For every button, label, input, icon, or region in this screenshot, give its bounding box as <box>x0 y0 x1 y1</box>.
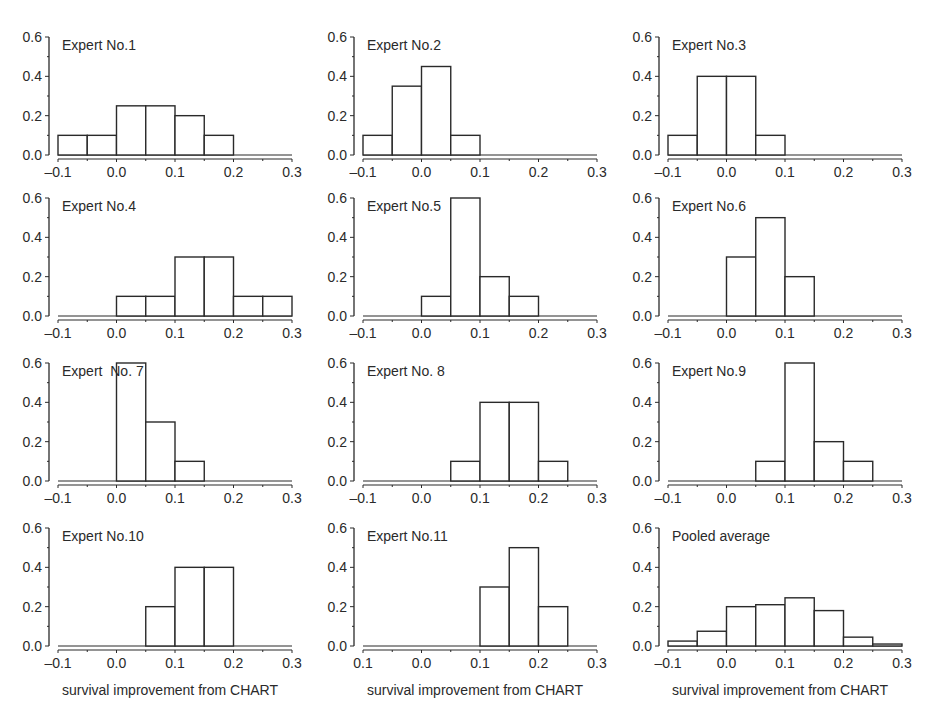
y-tick-label: 0.6 <box>328 29 348 45</box>
panel-title: Expert No. 7 <box>62 363 144 379</box>
x-tick-label: –0.1 <box>654 164 681 180</box>
x-tick-label: 0.3 <box>587 655 607 671</box>
histogram-bar <box>204 135 233 155</box>
histogram-panel-3: 0.00.20.40.6–0.10.00.10.20.3Expert No.3 <box>610 25 915 190</box>
x-tick-label: 0.3 <box>587 325 607 341</box>
histogram-bar <box>146 607 175 646</box>
x-tick-label: 0.2 <box>529 325 549 341</box>
y-tick-label: 0.0 <box>633 638 653 654</box>
y-tick-label: 0.4 <box>328 394 348 410</box>
histogram-bar <box>697 76 726 155</box>
histogram-svg: 0.00.20.40.6–0.10.00.10.20.3Expert No.5 <box>305 186 610 351</box>
x-tick-label: 0.1 <box>470 655 490 671</box>
x-tick-label: 0.2 <box>834 164 854 180</box>
x-tick-label: 0.3 <box>282 325 302 341</box>
x-tick-label: 0.1 <box>775 655 795 671</box>
histogram-panel-11: 0.00.20.40.60.10.00.10.20.3Expert No.11 <box>305 516 610 681</box>
x-tick-label: 0.3 <box>892 490 912 506</box>
histogram-bar <box>263 296 292 316</box>
histogram-bar <box>204 567 233 646</box>
y-tick-label: 0.4 <box>633 68 653 84</box>
y-tick-label: 0.2 <box>23 108 43 124</box>
x-tick-label: 0.2 <box>224 325 244 341</box>
x-tick-label: 0.0 <box>717 164 737 180</box>
histogram-bar <box>451 198 480 316</box>
x-tick-label: –0.1 <box>44 325 71 341</box>
histogram-bar <box>87 135 116 155</box>
y-tick-label: 0.2 <box>633 108 653 124</box>
histogram-bar <box>668 135 697 155</box>
histogram-svg: 0.00.20.40.6–0.10.00.10.20.3Expert No. 7 <box>0 351 305 516</box>
x-tick-label: 0.0 <box>107 164 127 180</box>
histogram-panel-7: 0.00.20.40.6–0.10.00.10.20.3Expert No. 7 <box>0 351 305 516</box>
histogram-bar <box>539 461 568 481</box>
x-tick-label: 0.1 <box>470 490 490 506</box>
histogram-svg: 0.00.20.40.6–0.10.00.10.20.3Expert No.3 <box>610 25 915 190</box>
histogram-bar <box>175 116 204 155</box>
histogram-svg: 0.00.20.40.60.10.00.10.20.3Expert No.11 <box>305 516 610 681</box>
y-tick-label: 0.0 <box>633 147 653 163</box>
histogram-bar <box>175 257 204 316</box>
y-tick-label: 0.4 <box>328 229 348 245</box>
panel-title: Expert No.4 <box>62 198 136 214</box>
x-tick-label: 0.2 <box>529 164 549 180</box>
y-tick-label: 0.6 <box>633 355 653 371</box>
y-tick-label: 0.2 <box>23 599 43 615</box>
histogram-bar <box>175 461 204 481</box>
x-tick-label: 0.3 <box>282 655 302 671</box>
histogram-bar <box>756 461 785 481</box>
histogram-panel-12: 0.00.20.40.6–0.10.00.10.20.3Pooled avera… <box>610 516 915 681</box>
x-tick-label: –0.1 <box>44 164 71 180</box>
panel-title: Expert No.2 <box>367 37 441 53</box>
x-tick-label: 0.1 <box>353 655 373 671</box>
y-tick-label: 0.4 <box>328 68 348 84</box>
y-tick-label: 0.6 <box>633 520 653 536</box>
x-tick-label: 0.1 <box>165 490 185 506</box>
x-tick-label: 0.1 <box>165 655 185 671</box>
y-tick-label: 0.4 <box>23 229 43 245</box>
x-tick-label: 0.2 <box>834 325 854 341</box>
x-axis-label: survival improvement from CHART <box>367 682 583 698</box>
histogram-bar <box>756 135 785 155</box>
y-tick-label: 0.2 <box>328 108 348 124</box>
x-tick-label: 0.0 <box>717 490 737 506</box>
panel-title: Expert No.10 <box>62 528 144 544</box>
histogram-panel-8: 0.00.20.40.6–0.10.00.10.20.3Expert No. 8 <box>305 351 610 516</box>
histogram-svg: 0.00.20.40.6–0.10.00.10.20.3Pooled avera… <box>610 516 915 681</box>
x-tick-label: 0.3 <box>282 164 302 180</box>
histogram-bar <box>234 296 263 316</box>
histogram-bar <box>451 461 480 481</box>
histogram-panel-6: 0.00.20.40.6–0.10.00.10.20.3Expert No.6 <box>610 186 915 351</box>
x-tick-label: 0.3 <box>892 164 912 180</box>
histogram-bar <box>668 641 697 646</box>
x-tick-label: –0.1 <box>654 490 681 506</box>
histogram-bar <box>451 135 480 155</box>
histogram-panel-1: 0.00.20.40.6–0.10.00.10.20.3Expert No.1 <box>0 25 305 190</box>
x-tick-label: 0.1 <box>775 325 795 341</box>
histogram-bar <box>873 644 902 646</box>
x-tick-label: 0.1 <box>470 325 490 341</box>
histogram-panel-2: 0.00.20.40.6–0.10.00.10.20.3Expert No.2 <box>305 25 610 190</box>
panel-title: Pooled average <box>672 528 770 544</box>
y-tick-label: 0.0 <box>23 473 43 489</box>
y-tick-label: 0.4 <box>633 394 653 410</box>
x-tick-label: 0.3 <box>892 325 912 341</box>
histogram-bar <box>785 598 814 646</box>
panel-title: Expert No.3 <box>672 37 746 53</box>
histogram-svg: 0.00.20.40.6–0.10.00.10.20.3Expert No.2 <box>305 25 610 190</box>
histogram-bar <box>814 442 843 481</box>
histogram-bar <box>785 277 814 316</box>
histogram-bar <box>697 631 726 646</box>
y-tick-label: 0.4 <box>23 394 43 410</box>
histogram-bar <box>480 277 509 316</box>
x-tick-label: 0.1 <box>165 164 185 180</box>
x-tick-label: 0.2 <box>224 164 244 180</box>
histogram-panel-4: 0.00.20.40.6–0.10.00.10.20.3Expert No.4 <box>0 186 305 351</box>
y-tick-label: 0.0 <box>328 473 348 489</box>
x-tick-label: 0.1 <box>165 325 185 341</box>
y-tick-label: 0.6 <box>23 29 43 45</box>
x-tick-label: 0.1 <box>470 164 490 180</box>
x-tick-label: 0.2 <box>834 655 854 671</box>
x-tick-label: 0.0 <box>717 325 737 341</box>
histogram-bar <box>844 637 873 646</box>
